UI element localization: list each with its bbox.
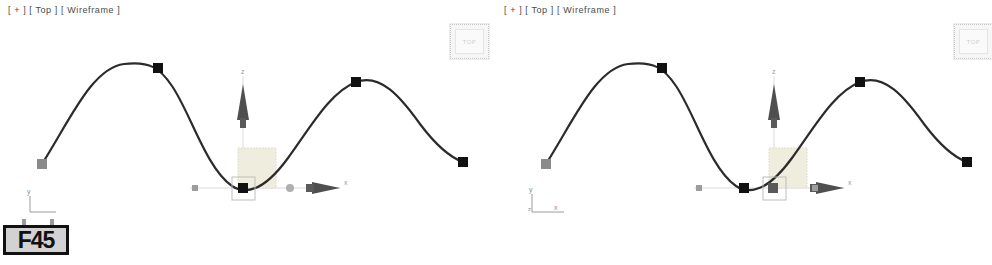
spline-vertex-crest1-right[interactable] [657, 63, 667, 73]
spline-curve-right[interactable] [546, 63, 967, 190]
gizmo-x-arrowhead-left[interactable] [312, 182, 340, 194]
spline-vertex-start-left[interactable] [37, 159, 47, 169]
gizmo-handle-square-right-1[interactable] [696, 185, 702, 191]
gizmo-handle-dot-left[interactable] [286, 184, 294, 192]
screenshot-stage: [ + ] [ Top ] [ Wireframe ] TOP z x [0, 0, 992, 265]
gizmo-z-axis-label-left: z [241, 68, 245, 75]
svg-text:x: x [554, 204, 558, 211]
viewport-left[interactable]: [ + ] [ Top ] [ Wireframe ] TOP z x [0, 0, 496, 265]
axis-tripod-left: y [22, 186, 62, 216]
spline-vertex-trough-right[interactable] [739, 183, 749, 193]
gizmo-plane-handle-left[interactable] [238, 148, 276, 188]
axis-tripod-right: y z x [524, 182, 570, 218]
gizmo-handle-square-left-1[interactable] [192, 185, 198, 191]
gizmo-z-arrowhead-left[interactable] [237, 84, 249, 120]
gizmo-handle-square-right-2[interactable] [812, 185, 818, 191]
gizmo-x-axis-label-left: x [344, 179, 348, 186]
gizmo-plane-handle-right[interactable] [769, 148, 807, 188]
gizmo-z-arrow-base-right [771, 118, 777, 128]
gizmo-x-arrow-base-left [306, 184, 314, 192]
spline-vertex-end-left[interactable] [458, 157, 468, 167]
spline-vertex-start-right[interactable] [541, 159, 551, 169]
spline-vertex-end-right[interactable] [962, 157, 972, 167]
spline-vertex-crest2-right[interactable] [855, 77, 865, 87]
frame-number-badge[interactable]: F45 [3, 225, 69, 255]
spline-vertex-trough-left[interactable] [238, 183, 248, 193]
viewport-right[interactable]: [ + ] [ Top ] [ Wireframe ] TOP z x [496, 0, 992, 265]
svg-text:y: y [27, 188, 31, 196]
gizmo-center-handle-right[interactable] [768, 183, 778, 193]
gizmo-z-axis-label-right: z [772, 68, 776, 75]
spline-vertex-crest1-left[interactable] [153, 63, 163, 73]
spline-vertex-crest2-left[interactable] [351, 77, 361, 87]
gizmo-z-arrowhead-right[interactable] [768, 84, 780, 120]
wireframe-canvas-right: z x [496, 0, 992, 265]
gizmo-z-arrow-base-left [240, 118, 246, 128]
wireframe-canvas-left: z x [0, 0, 496, 265]
gizmo-x-axis-label-right: x [848, 179, 852, 186]
svg-text:y: y [529, 186, 533, 194]
svg-text:z: z [528, 206, 531, 212]
gizmo-x-arrowhead-right[interactable] [816, 182, 844, 194]
